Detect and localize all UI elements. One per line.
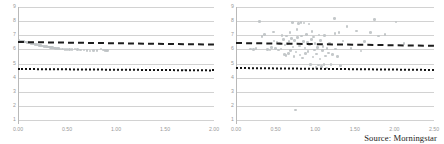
y-axis-tick-label: 3 — [0, 89, 16, 94]
x-axis-tick-label: 0.00 — [3, 127, 33, 132]
x-axis-tick-label: 1.50 — [150, 127, 180, 132]
y-axis-tick-label: 5 — [218, 61, 234, 66]
data-point — [342, 40, 345, 43]
data-point — [92, 49, 95, 52]
data-point — [319, 58, 322, 61]
x-axis-tick-label: 2.50 — [419, 127, 444, 132]
data-point — [300, 21, 303, 24]
data-point — [308, 23, 311, 26]
y-axis-tick-label: 3 — [218, 89, 234, 94]
data-point — [287, 52, 290, 55]
x-axis-tick-label: 1.00 — [300, 127, 330, 132]
data-point — [312, 36, 315, 39]
gridline — [236, 92, 434, 93]
y-axis-tick-label: 2 — [218, 103, 234, 108]
data-point — [258, 20, 261, 23]
data-point — [316, 46, 319, 49]
data-point — [312, 56, 315, 59]
data-point — [313, 49, 316, 52]
data-point — [323, 63, 326, 66]
data-point — [289, 31, 292, 34]
x-axis-tick-label: 1.00 — [101, 127, 131, 132]
data-point — [307, 50, 310, 53]
data-point — [311, 30, 314, 33]
data-point — [363, 40, 366, 43]
data-point — [305, 33, 308, 36]
data-point — [336, 55, 339, 58]
data-point — [330, 63, 333, 66]
data-point — [384, 33, 387, 36]
x-axis-tick-label: 0.50 — [261, 127, 291, 132]
data-point — [331, 53, 334, 56]
data-point — [395, 21, 398, 24]
x-axis-tick-label: 0.00 — [221, 127, 251, 132]
y-axis-line — [18, 7, 19, 124]
source-note: Source: Morningstar — [364, 133, 437, 143]
data-point — [295, 51, 298, 54]
y-axis-tick-label: 9 — [218, 4, 234, 9]
data-point — [309, 63, 312, 66]
x-axis-tick-label: 2.00 — [379, 127, 409, 132]
y-axis-line — [236, 7, 237, 124]
y-axis-tick-label: 5 — [0, 61, 16, 66]
data-point — [350, 47, 353, 50]
data-point — [327, 52, 330, 55]
gridline — [18, 35, 214, 36]
y-axis-tick-label: 4 — [0, 75, 16, 80]
data-point — [291, 21, 294, 24]
data-point — [377, 35, 380, 38]
data-point — [333, 17, 336, 20]
gridline — [18, 21, 214, 22]
y-axis-tick-label: 7 — [218, 32, 234, 37]
data-point — [338, 31, 341, 34]
data-point — [301, 57, 304, 60]
data-point — [296, 36, 299, 39]
gridline — [236, 21, 434, 22]
gridline — [18, 106, 214, 107]
data-point — [300, 35, 303, 38]
y-axis-tick-label: 1 — [218, 117, 234, 122]
data-point — [86, 49, 89, 52]
gridline — [18, 78, 214, 79]
y-axis-tick-label: 6 — [218, 46, 234, 51]
data-point — [263, 33, 266, 36]
y-axis-tick-label: 8 — [218, 18, 234, 23]
gridline — [236, 106, 434, 107]
gridline — [18, 64, 214, 65]
scatter-chart-left: 987654321 0.000.501.001.502.00 — [0, 0, 219, 144]
y-axis-tick-label: 2 — [0, 103, 16, 108]
plot-area-left — [18, 7, 214, 120]
data-point — [89, 50, 92, 53]
y-axis-tick-label: 4 — [218, 75, 234, 80]
data-point — [106, 49, 109, 52]
gridline — [18, 92, 214, 93]
data-point — [296, 28, 299, 31]
gridline — [236, 78, 434, 79]
x-axis-tick-label: 1.50 — [340, 127, 370, 132]
data-point — [321, 49, 324, 52]
data-point — [346, 25, 349, 28]
data-point — [319, 39, 322, 42]
y-axis-tick-label: 8 — [0, 18, 16, 23]
data-point — [292, 46, 295, 49]
data-point — [293, 55, 296, 58]
x-axis-tick-label: 0.50 — [52, 127, 82, 132]
scatter-chart-right: 987654321 0.000.501.001.502.002.50 — [220, 0, 439, 144]
data-point — [373, 18, 376, 21]
data-point — [289, 49, 292, 52]
gridline — [236, 64, 434, 65]
data-point — [324, 55, 327, 58]
y-axis-tick-label: 6 — [0, 46, 16, 51]
data-point — [293, 39, 296, 42]
threshold-line — [236, 67, 434, 71]
data-point — [322, 45, 325, 48]
y-axis-tick-label: 1 — [0, 117, 16, 122]
data-point — [294, 109, 297, 112]
gridline — [18, 7, 214, 8]
data-point — [83, 49, 86, 52]
data-point — [272, 31, 275, 34]
data-point — [79, 49, 82, 52]
threshold-line — [18, 68, 214, 71]
data-point — [96, 49, 99, 52]
